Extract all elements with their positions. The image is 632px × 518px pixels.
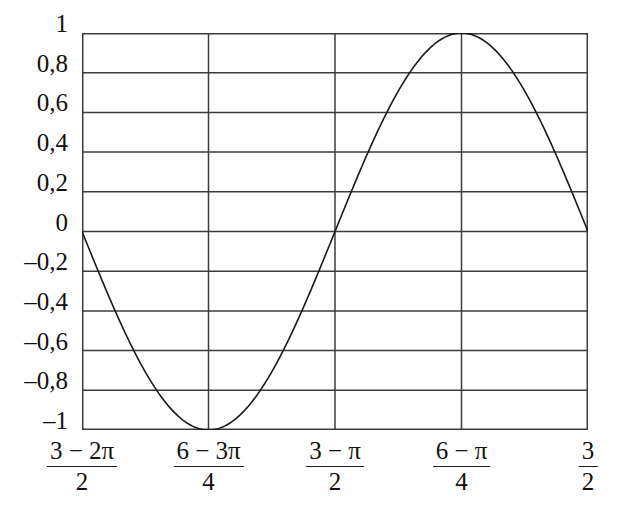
fraction-numerator: 6 − 3π	[173, 437, 243, 467]
chart-figure: 10,80,60,40,20–0,2–0,4–0,6–0,8–1 3 − 2π2…	[0, 0, 632, 518]
fraction: 6 − 3π4	[173, 437, 243, 496]
fraction: 6 − π4	[433, 437, 491, 496]
fraction-numerator: 3	[579, 437, 598, 467]
x-axis-tick-labels: 3 − 2π26 − 3π43 − π26 − π432	[82, 437, 588, 518]
fraction-denominator: 2	[306, 467, 364, 496]
fraction-denominator: 4	[173, 467, 243, 496]
fraction: 32	[579, 437, 598, 496]
x-axis-tick-label: 32	[579, 437, 598, 496]
x-axis-tick-label: 6 − π4	[433, 437, 491, 496]
y-axis-tick-labels: 10,80,60,40,20–0,2–0,4–0,6–0,8–1	[0, 33, 76, 430]
fraction-numerator: 6 − π	[433, 437, 491, 467]
fraction-denominator: 4	[433, 467, 491, 496]
fraction-denominator: 2	[47, 467, 117, 496]
fraction-numerator: 3 − π	[306, 437, 364, 467]
x-axis-tick-label: 3 − 2π2	[47, 437, 117, 496]
fraction: 3 − 2π2	[47, 437, 117, 496]
fraction-numerator: 3 − 2π	[47, 437, 117, 467]
chart-canvas	[82, 33, 588, 430]
fraction-denominator: 2	[579, 467, 598, 496]
x-axis-tick-label: 6 − 3π4	[173, 437, 243, 496]
fraction: 3 − π2	[306, 437, 364, 496]
plot-area	[82, 33, 588, 430]
x-axis-tick-label: 3 − π2	[306, 437, 364, 496]
